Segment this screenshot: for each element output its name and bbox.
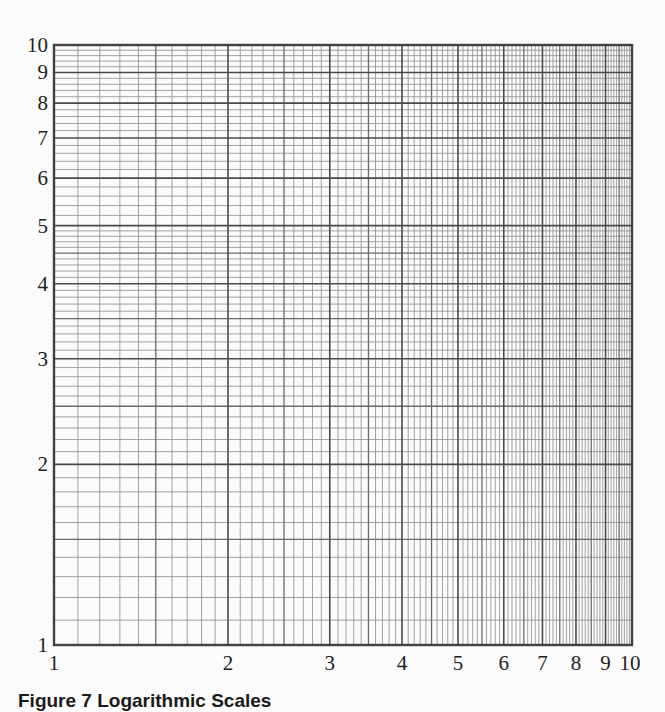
x-axis-tick-labels: 12345678910 <box>49 651 641 675</box>
x-tick-label: 8 <box>571 651 582 675</box>
x-tick-label: 2 <box>223 651 234 675</box>
figure-caption: Figure 7 Logarithmic Scales <box>18 690 271 712</box>
x-tick-label: 10 <box>620 651 641 675</box>
x-tick-label: 6 <box>499 651 510 675</box>
y-tick-label: 9 <box>38 60 49 84</box>
minor-grid-lines <box>54 45 632 645</box>
y-tick-label: 4 <box>38 272 49 296</box>
y-tick-label: 6 <box>38 166 49 190</box>
y-tick-label: 3 <box>38 347 49 371</box>
x-tick-label: 1 <box>49 651 60 675</box>
y-tick-label: 10 <box>27 33 48 57</box>
y-tick-label: 5 <box>38 214 49 238</box>
y-tick-label: 7 <box>38 126 49 150</box>
half-grid-lines <box>54 45 632 645</box>
x-tick-label: 3 <box>325 651 336 675</box>
y-axis-tick-labels: 12345678910 <box>27 33 49 657</box>
plot-frame <box>54 45 632 645</box>
x-tick-label: 4 <box>397 651 408 675</box>
y-tick-label: 8 <box>38 91 49 115</box>
y-tick-label: 2 <box>38 452 49 476</box>
major-grid-lines <box>54 45 632 645</box>
x-tick-label: 7 <box>537 651 548 675</box>
x-tick-label: 5 <box>453 651 464 675</box>
x-tick-label: 9 <box>600 651 611 675</box>
y-tick-label: 1 <box>38 633 49 657</box>
